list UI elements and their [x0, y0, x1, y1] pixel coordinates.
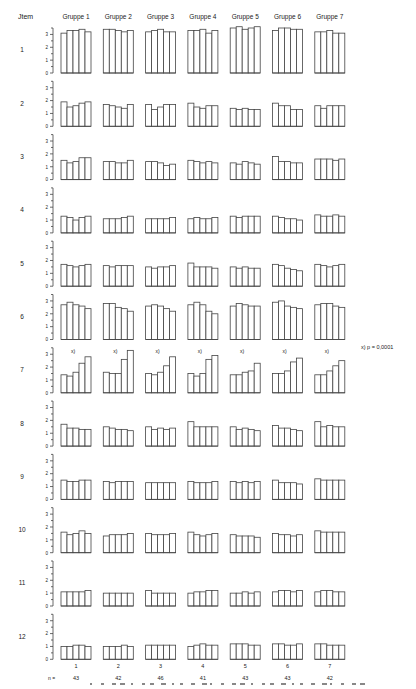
bar: [285, 306, 291, 339]
bar: [327, 426, 333, 447]
bar: [109, 162, 115, 180]
bar: [188, 481, 194, 499]
bar-group: [315, 422, 345, 446]
bar-group: [188, 422, 218, 446]
bar-group: x): [188, 348, 218, 393]
bar: [206, 591, 212, 606]
bar: [315, 375, 321, 393]
bar: [200, 108, 206, 126]
item-row: 90123: [20, 454, 345, 502]
bar: [146, 374, 152, 393]
n-value: 41: [200, 675, 206, 681]
significance-note: x) p = 0,0001: [361, 344, 393, 350]
item-label: 1: [20, 46, 24, 53]
bar-group: [61, 158, 91, 180]
bar: [230, 163, 236, 180]
bar: [73, 481, 79, 499]
bar: [297, 591, 303, 606]
bar: [127, 646, 133, 659]
bar: [315, 531, 321, 553]
bar: [212, 163, 218, 180]
bar-group: [103, 427, 133, 446]
item-label: 8: [20, 420, 24, 427]
bar-group: [188, 263, 218, 286]
bar: [152, 375, 158, 393]
bar: [200, 29, 206, 73]
bar: [291, 219, 297, 233]
bar: [242, 644, 248, 659]
bar: [273, 374, 279, 393]
bar: [242, 428, 248, 446]
bar: [121, 266, 127, 287]
bar: [248, 28, 254, 73]
bar: [291, 362, 297, 393]
significance-marker: x): [325, 348, 330, 354]
bar: [339, 307, 345, 339]
bar: [212, 217, 218, 232]
bar: [109, 535, 115, 553]
bar: [242, 536, 248, 553]
item-row: 20123: [20, 81, 345, 129]
bar: [339, 33, 345, 73]
y-tick-label: 0: [45, 124, 48, 129]
bar-group: [315, 159, 345, 180]
bar: [146, 219, 152, 233]
bar: [248, 483, 254, 500]
bar: [109, 428, 115, 446]
bar: [248, 216, 254, 233]
bar: [339, 216, 345, 233]
bar: [127, 431, 133, 446]
bar: [291, 483, 297, 500]
bar: [279, 591, 285, 606]
bar-group: [273, 216, 303, 233]
caption-mark: [262, 683, 265, 685]
bar: [170, 593, 176, 606]
n-label: n =: [48, 675, 55, 681]
bar: [230, 644, 236, 659]
bar: [321, 108, 327, 126]
bar: [230, 108, 236, 126]
bar: [109, 106, 115, 127]
bar: [212, 533, 218, 552]
bar: [79, 363, 85, 393]
bar: [73, 162, 79, 180]
bar: [321, 266, 327, 287]
bar: [194, 376, 200, 393]
bar: [61, 33, 67, 73]
bar: [61, 216, 67, 233]
bar-group: [103, 160, 133, 179]
bar: [79, 158, 85, 180]
bar: [164, 165, 170, 179]
bar: [170, 357, 176, 393]
bar: [333, 645, 339, 659]
bar: [248, 110, 254, 127]
group-header: Gruppe 7: [316, 13, 343, 21]
item-row: 120123: [18, 614, 344, 662]
bar: [230, 481, 236, 499]
bar: [164, 593, 170, 606]
y-tick-label: 3: [45, 405, 48, 410]
bar: [291, 163, 297, 180]
bar-group: [230, 304, 260, 340]
bar: [146, 591, 152, 606]
bar: [273, 302, 279, 339]
caption-mark: [341, 683, 344, 685]
bar: [115, 107, 121, 126]
bar: [297, 29, 303, 73]
bar: [85, 158, 91, 180]
y-tick-label: 3: [45, 512, 48, 517]
bar: [127, 160, 133, 179]
bar: [285, 106, 291, 127]
bar-group: [61, 102, 91, 126]
y-tick-label: 0: [45, 337, 48, 342]
bar: [327, 106, 333, 127]
bar: [327, 591, 333, 606]
bar: [339, 427, 345, 446]
bar: [327, 159, 333, 180]
item-rows: 10123201233012340123501236012370123x)x)x…: [18, 27, 344, 662]
bar: [127, 593, 133, 606]
bar: [236, 375, 242, 393]
bar: [333, 532, 339, 553]
bar: [291, 645, 297, 659]
group-number: 5: [244, 663, 247, 669]
